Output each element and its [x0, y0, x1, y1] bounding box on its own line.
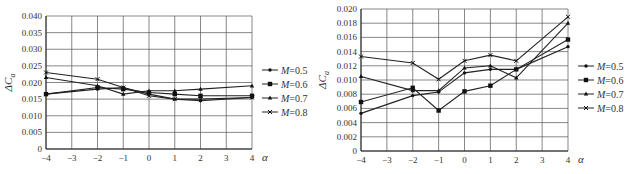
x-tick-label: −1 [118, 153, 128, 163]
square-marker-icon [359, 100, 363, 104]
triangle-marker-icon [566, 21, 570, 25]
x-tick-label: 0 [147, 153, 152, 163]
square-marker-icon [268, 82, 272, 86]
y-axis-label: ΔCa [2, 74, 17, 93]
y-tick-label: 0.015 [22, 94, 43, 104]
legend-label: M=0.8 [596, 103, 623, 114]
legend-label: M=0.6 [280, 79, 307, 90]
y-tick-label: 0.004 [337, 118, 358, 128]
y-tick-label: 0.006 [337, 103, 358, 113]
diamond-marker-icon [566, 45, 569, 48]
y-tick-label: 0.025 [22, 61, 43, 71]
x-tick-label: −3 [382, 155, 392, 165]
x-tick-label: −2 [408, 155, 418, 165]
legend-item: M=0.6 [262, 79, 307, 90]
legend-label: M=0.7 [280, 93, 307, 104]
x-tick-label: −3 [67, 153, 77, 163]
grid [361, 9, 568, 151]
square-marker-icon [44, 92, 48, 96]
x-tick-label: −4 [41, 153, 51, 163]
y-tick-label: 0.035 [22, 28, 43, 38]
y-tick-label: 0.016 [337, 32, 358, 42]
y-tick-label: 0.010 [22, 111, 43, 121]
legend-item: M=0.5 [578, 61, 623, 72]
diamond-marker-icon [463, 71, 466, 74]
y-tick-label: 0.018 [337, 18, 358, 28]
y-tick-label: 0.012 [337, 61, 357, 71]
legend-item: M=0.7 [262, 93, 307, 104]
diamond-marker-icon [359, 112, 362, 115]
y-tick-label: 0.010 [337, 75, 358, 85]
legend-item: M=0.7 [578, 89, 623, 100]
legend-item: M=0.8 [578, 103, 623, 114]
x-tick-label: 2 [514, 155, 519, 165]
x-tick-label: 0 [462, 155, 467, 165]
legend: M=0.5M=0.6M=0.7M=0.8 [262, 65, 307, 118]
y-tick-label: 0.040 [22, 11, 43, 21]
square-marker-icon [584, 78, 588, 82]
legend-label: M=0.7 [596, 89, 623, 100]
x-tick-label: 3 [224, 153, 229, 163]
legend-item: M=0.5 [262, 65, 307, 76]
legend-label: M=0.5 [596, 61, 623, 72]
x-tick-label: 1 [488, 155, 493, 165]
y-tick-label: 0.005 [22, 127, 43, 137]
diamond-marker-icon [489, 68, 492, 71]
x-axis-label: α [262, 151, 268, 163]
square-marker-icon [462, 89, 466, 93]
y-tick-label: 0.030 [22, 44, 43, 54]
chart-canvas: 00.0050.0100.0150.0200.0250.0300.0350.04… [0, 0, 630, 174]
legend-label: M=0.5 [280, 65, 307, 76]
legend-label: M=0.8 [280, 107, 307, 118]
x-tick-label: −1 [434, 155, 444, 165]
y-tick-label: 0.014 [337, 47, 358, 57]
left-chart: 00.0050.0100.0150.0200.0250.0300.0350.04… [2, 11, 307, 163]
y-tick-label: 0.008 [337, 89, 358, 99]
square-marker-icon [514, 67, 518, 71]
legend-item: M=0.8 [262, 107, 307, 118]
legend: M=0.5M=0.6M=0.7M=0.8 [578, 61, 623, 114]
y-tick-label: 0.020 [337, 4, 358, 14]
triangle-marker-icon [44, 75, 48, 79]
square-marker-icon [173, 92, 177, 96]
x-tick-label: 2 [198, 153, 203, 163]
x-tick-label: 4 [250, 153, 255, 163]
square-marker-icon [566, 37, 570, 41]
y-tick-label: 0.020 [22, 78, 43, 88]
x-tick-label: 3 [540, 155, 545, 165]
x-axis-label: α [578, 153, 584, 165]
square-marker-icon [488, 83, 492, 87]
x-tick-label: 1 [173, 153, 178, 163]
legend-label: M=0.6 [596, 75, 623, 86]
diamond-marker-icon [411, 94, 414, 97]
right-chart: 00.0020.0040.0060.0080.0100.0120.0140.01… [316, 4, 623, 165]
square-marker-icon [436, 108, 440, 112]
diamond-marker-icon [268, 68, 271, 71]
legend-item: M=0.6 [578, 75, 623, 86]
y-axis-label: ΔCa [316, 71, 331, 90]
diamond-marker-icon [584, 64, 587, 67]
x-tick-label: −4 [356, 155, 366, 165]
triangle-marker-icon [359, 74, 363, 78]
x-tick-label: −2 [93, 153, 103, 163]
x-tick-label: 4 [566, 155, 571, 165]
y-tick-label: 0.002 [337, 132, 357, 142]
